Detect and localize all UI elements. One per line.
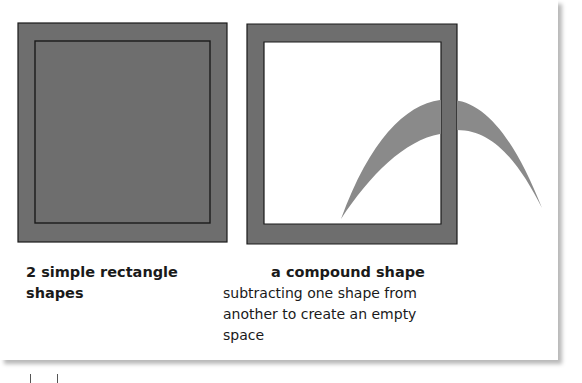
right-caption: a compound shape subtracting one shape f… xyxy=(223,262,463,346)
right-caption-line-3: space xyxy=(223,325,463,346)
inner-rectangle xyxy=(35,41,210,223)
tick-mark xyxy=(57,374,58,383)
left-caption: 2 simple rectangle shapes xyxy=(26,262,226,304)
right-caption-title: a compound shape xyxy=(271,264,425,280)
right-caption-line-2: another to create an empty xyxy=(223,304,463,325)
tick-mark xyxy=(30,374,31,383)
diagram-card: 2 simple rectangle shapes a compound sha… xyxy=(0,0,558,360)
compound-shape-illustration xyxy=(240,0,560,250)
simple-rectangles-illustration xyxy=(17,22,229,244)
left-caption-text: 2 simple rectangle shapes xyxy=(26,264,178,301)
right-caption-line-1: subtracting one shape from xyxy=(223,283,463,304)
